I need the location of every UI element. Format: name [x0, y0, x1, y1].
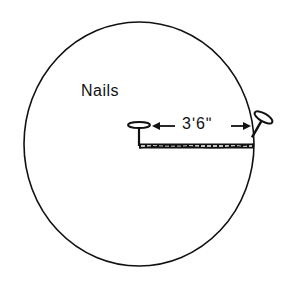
diagram-svg [0, 0, 290, 292]
dimension-label: 3ʹ6ʺ [182, 115, 213, 133]
diagram-canvas: Nails 3ʹ6ʺ [0, 0, 290, 292]
left-arrow-icon [152, 122, 175, 130]
nails-label: Nails [81, 82, 119, 100]
right-arrow-icon [231, 122, 251, 130]
chain-line [139, 144, 254, 148]
center-nail-icon [128, 122, 150, 146]
